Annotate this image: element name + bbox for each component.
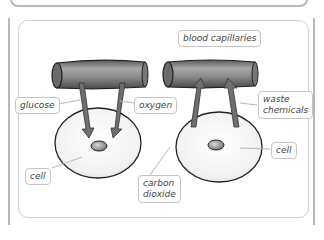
label-waste-line1: waste (263, 94, 308, 105)
label-left-cell: cell (25, 168, 51, 185)
left-cell (55, 108, 141, 178)
label-carbon-line2: dioxide (143, 189, 176, 200)
label-waste-line2: chemicals (263, 105, 308, 116)
label-oxygen: oxygen (134, 97, 177, 114)
right-cell (176, 112, 262, 182)
label-carbon-dioxide: carbon dioxide (138, 175, 181, 203)
right-capillary (163, 60, 258, 88)
label-glucose: glucose (15, 97, 60, 114)
label-blood-capillaries: blood capillaries (178, 30, 261, 47)
label-waste-chemicals: waste chemicals (258, 91, 313, 119)
label-right-cell: cell (271, 142, 297, 159)
label-carbon-line1: carbon (143, 178, 176, 189)
left-capillary (52, 60, 148, 89)
